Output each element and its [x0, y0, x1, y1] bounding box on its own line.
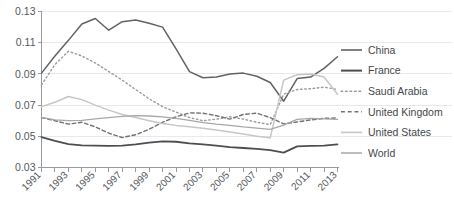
- x-axis-tick-labels: 1991199319951997199920012003200520072009…: [19, 168, 339, 193]
- series-line-china: [42, 19, 338, 102]
- x-tick-label-1999: 1999: [127, 169, 151, 193]
- y-axis-tick-labels: 0.030.050.070.090.110.13: [15, 5, 41, 173]
- x-tick-label-2011: 2011: [289, 169, 312, 192]
- y-tick-label-0.13: 0.13: [15, 5, 36, 17]
- x-tick-label-1997: 1997: [100, 169, 124, 193]
- x-tick-label-2007: 2007: [235, 169, 259, 193]
- data-series: [42, 19, 338, 153]
- legend-label-saudi-arabia: Saudi Arabia: [368, 85, 428, 97]
- x-tick-label-2005: 2005: [208, 169, 232, 193]
- legend-label-united-kingdom: United Kingdom: [368, 106, 443, 118]
- y-tick-label-0.09: 0.09: [15, 68, 36, 80]
- legend-label-france: France: [368, 64, 401, 76]
- x-tick-label-2003: 2003: [181, 169, 205, 193]
- series-line-united-kingdom: [42, 113, 338, 138]
- x-tick-label-2009: 2009: [262, 169, 286, 193]
- series-line-united-states: [42, 74, 338, 138]
- y-tick-label-0.07: 0.07: [15, 99, 36, 111]
- y-tick-label-0.11: 0.11: [16, 36, 36, 48]
- x-tick-label-1995: 1995: [73, 169, 97, 193]
- chart-canvas: 0.030.050.070.090.110.13 199119931995199…: [0, 0, 454, 204]
- chart-legend: ChinaFranceSaudi ArabiaUnited KingdomUni…: [341, 44, 443, 159]
- legend-label-world: World: [368, 147, 395, 159]
- series-line-france: [42, 137, 338, 153]
- legend-label-united-states: United States: [368, 126, 431, 138]
- y-tick-label-0.05: 0.05: [15, 130, 36, 142]
- x-tick-label-1993: 1993: [46, 169, 70, 193]
- x-tick-label-2001: 2001: [154, 169, 178, 193]
- series-line-saudi-arabia: [42, 51, 338, 124]
- legend-label-china: China: [368, 44, 396, 56]
- x-tick-label-2013: 2013: [315, 169, 339, 193]
- line-chart: 0.030.050.070.090.110.13 199119931995199…: [0, 0, 454, 204]
